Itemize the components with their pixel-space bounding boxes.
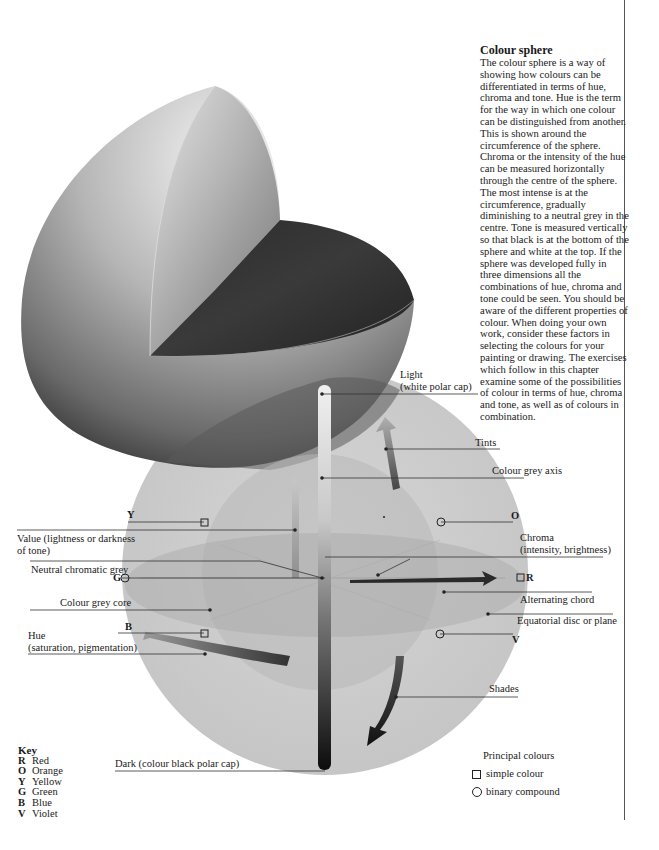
- article: Colour sphere The colour sphere is a way…: [480, 44, 630, 423]
- key-title: Key: [18, 745, 63, 756]
- key: Key RRed OOrange YYellow GGreen BBlue VV…: [18, 745, 63, 819]
- label-hue: Hue (saturation, pigmentation): [28, 630, 137, 654]
- label-chroma-title: Chroma: [520, 532, 611, 544]
- label-light-sub: (white polar cap): [400, 381, 472, 393]
- legend-simple-colour: simple colour: [472, 768, 560, 780]
- key-code: V: [18, 809, 32, 820]
- label-value-sub: of tone): [17, 545, 135, 557]
- key-item: BBlue: [18, 798, 63, 809]
- label-value: Value (lightness or darkness of tone): [17, 533, 135, 557]
- label-shades: Shades: [489, 683, 519, 695]
- key-name: Violet: [32, 809, 58, 820]
- label-hue-sub: (saturation, pigmentation): [28, 642, 137, 654]
- square-icon: [472, 770, 481, 779]
- label-light: Light (white polar cap): [400, 369, 472, 393]
- label-colour-grey-axis: Colour grey axis: [492, 465, 562, 477]
- principal-colours-legend: Principal colours simple colour binary c…: [472, 750, 560, 798]
- key-code: B: [18, 798, 32, 809]
- label-tints: Tints: [475, 437, 496, 449]
- label-dark: Dark (colour black polar cap): [115, 758, 239, 770]
- legend-title: Principal colours: [472, 750, 560, 762]
- article-title: Colour sphere: [480, 44, 630, 57]
- legend-binary-label: binary compound: [486, 786, 560, 798]
- hue-marker-y: Y: [127, 509, 135, 521]
- hue-marker-r: R: [526, 572, 534, 584]
- legend-simple-label: simple colour: [486, 768, 543, 780]
- label-value-title: Value (lightness or darkness: [17, 533, 135, 545]
- label-hue-title: Hue: [28, 630, 137, 642]
- key-item: VViolet: [18, 809, 63, 820]
- label-chroma: Chroma (intensity, brightness): [520, 532, 611, 556]
- label-chroma-sub: (intensity, brightness): [520, 544, 611, 556]
- article-body: The colour sphere is a way of showing ho…: [480, 57, 630, 423]
- label-neutral-chromatic-grey: Neutral chromatic grey: [31, 564, 128, 576]
- legend-binary-compound: binary compound: [472, 786, 560, 798]
- circle-icon: [472, 787, 482, 797]
- hue-marker-v: V: [512, 634, 520, 646]
- key-name: Blue: [32, 798, 52, 809]
- hue-marker-o: O: [511, 510, 519, 522]
- label-light-title: Light: [400, 369, 472, 381]
- label-colour-grey-core: Colour grey core: [60, 597, 131, 609]
- label-alternating-chord: Alternating chord: [520, 594, 594, 606]
- label-equatorial-disc: Equatorial disc or plane: [517, 615, 617, 627]
